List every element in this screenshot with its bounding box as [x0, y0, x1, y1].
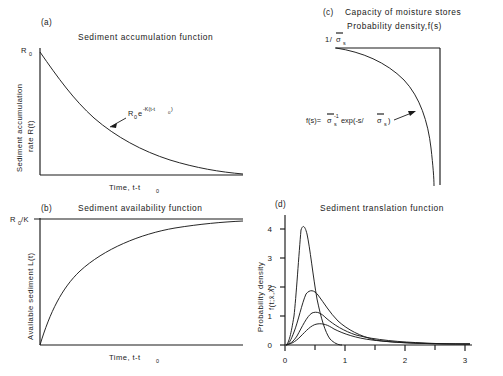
- panel-d-curve-4: [286, 324, 470, 345]
- panel-d-x-ticks: 0 1 2 3: [283, 345, 468, 365]
- panel-d-xtick-label-1: 1: [343, 356, 348, 365]
- panel-c-eq-sigma2-sub: s: [384, 121, 387, 127]
- panel-a-ytop-sub: 0: [29, 51, 32, 57]
- panel-d-curve-2: [286, 291, 470, 345]
- panel-c-eq-sigma-sub: s: [334, 121, 337, 127]
- panel-a-annotation: R 0 e -K(t-t 0 ): [110, 106, 173, 128]
- panel-c-eq-lhs: f(s)=: [306, 116, 321, 125]
- panel-b-ylabel: Available sediment L(t): [26, 253, 35, 340]
- panel-c-ytop-sigma: σ: [336, 35, 341, 44]
- panel-c-eq-sigma: σ: [327, 116, 332, 125]
- panel-c-eq-close: ): [388, 116, 390, 125]
- panel-d-title: Sediment translation function: [320, 203, 444, 213]
- panel-b-ytop-post: /K: [21, 215, 29, 224]
- panel-b-title: Sediment availability function: [78, 203, 203, 213]
- panel-d-ytick-label-4: 4: [268, 225, 273, 234]
- panel-a-tag: (a): [41, 18, 52, 27]
- panel-d-ylabel-line2: f(t;x̄,λ): [267, 285, 276, 310]
- panel-c-title: Capacity of moisture stores: [345, 7, 461, 17]
- panel-a-eq-base: R: [128, 109, 133, 118]
- panel-d-xtick-label-2: 2: [403, 356, 408, 365]
- panel-c-subtitle: Probability density,f(s): [347, 21, 442, 31]
- panel-c-arrow-head: [408, 111, 416, 116]
- panel-b-xlabel: Time, t-t: [109, 353, 141, 362]
- panel-d-xtick-label-3: 3: [463, 356, 468, 365]
- panel-c-tag: (c): [323, 8, 333, 17]
- panel-a: (a) Sediment accumulation function R 0 S…: [15, 18, 243, 194]
- panel-a-ytop-label: R: [21, 46, 27, 55]
- panel-d-tag: (d): [275, 200, 286, 209]
- panel-d-ytick-label-1: 1: [268, 312, 273, 321]
- panel-d: (d) Sediment translation function 0 1 2 …: [256, 200, 472, 365]
- panel-b-ytop-label: R: [10, 215, 16, 224]
- panel-d-ylabel-line1: Probability density: [256, 262, 265, 332]
- panel-a-eq-exponent-post: ): [171, 106, 173, 112]
- panel-a-eq-e: e: [138, 109, 142, 118]
- panel-a-xlabel: Time, t-t: [109, 183, 141, 192]
- panel-a-ylabel-line2: rate R(t): [26, 120, 35, 152]
- figure-svg: (a) Sediment accumulation function R 0 S…: [0, 0, 503, 376]
- panel-b-curve-rise: [40, 221, 243, 345]
- panel-c-eq-sigma2: σ: [377, 116, 382, 125]
- panel-c: (c) Capacity of moisture stores Probabil…: [306, 7, 461, 186]
- panel-d-xtick-label-0: 0: [283, 356, 288, 365]
- panel-a-eq-exponent: -K(t-t: [143, 106, 155, 112]
- panel-d-ytick-label-0: 0: [268, 341, 273, 350]
- panel-a-ylabel-line1: Sediment accumulation: [15, 84, 24, 172]
- panel-c-eq-mid: exp(-s/: [341, 116, 365, 125]
- panel-b-xlabel-sub: 0: [156, 358, 159, 364]
- panel-c-ytop-pre: 1/: [325, 35, 333, 44]
- panel-a-title: Sediment accumulation function: [78, 32, 213, 42]
- panel-a-eq-base-sub: 0: [134, 114, 137, 120]
- panel-d-curve-1: [286, 227, 342, 345]
- panel-c-annotation: f(s)= σ s -1 exp(-s/ σ s ): [306, 111, 416, 127]
- panel-c-ytop-sub: s: [343, 40, 346, 46]
- panel-c-eq-sigma-sup: -1: [334, 113, 339, 119]
- panel-a-arrow-head: [110, 123, 117, 128]
- figure-canvas: (a) Sediment accumulation function R 0 S…: [0, 0, 503, 376]
- panel-a-xlabel-sub: 0: [156, 188, 159, 194]
- panel-b: (b) Sediment availability function R 0 /…: [10, 203, 243, 364]
- panel-d-ytick-label-3: 3: [268, 254, 273, 263]
- panel-b-tag: (b): [41, 204, 52, 213]
